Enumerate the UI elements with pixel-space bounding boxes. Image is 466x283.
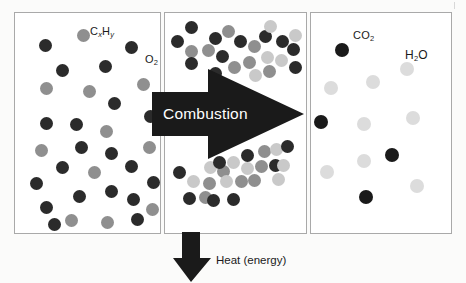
molecule-circle [147,176,160,189]
molecule-circle [30,177,43,190]
molecule-circle [357,117,371,131]
molecule-circle [220,175,233,188]
molecule-circle [56,64,69,77]
molecule-circle [209,32,222,45]
molecule-circle [100,125,113,138]
label-o2: O2 [145,54,158,65]
molecule-circle [202,44,215,57]
molecule-circle [99,60,112,73]
molecule-circle [101,216,114,229]
molecule-circle [261,51,274,64]
molecule-circle [324,81,338,95]
molecule-circle [207,194,220,207]
label-co2: CO2 [353,30,374,41]
molecule-circle [105,185,118,198]
molecule-circle [146,203,159,216]
molecule-circle [406,111,420,125]
molecule-circle [125,41,138,54]
molecule-circle [40,82,53,95]
molecule-circle [359,190,373,204]
molecule-circle [40,201,53,214]
molecule-circle [264,20,277,33]
molecule-circle [235,175,248,188]
molecule-circle [56,161,69,174]
corner-tick-mark [447,2,455,9]
molecule-circle [357,154,371,168]
molecule-circle [83,85,96,98]
molecule-circle [366,75,380,89]
molecule-circle [400,62,414,76]
molecule-circle [275,54,288,67]
molecule-circle [385,148,399,162]
molecule-circle [39,39,52,52]
molecule-circle [255,160,268,173]
molecule-circle [287,43,300,56]
molecule-circle [40,117,53,130]
molecule-circle [70,118,83,131]
molecule-circle [314,115,328,129]
molecule-circle [131,213,144,226]
molecule-circle [320,165,334,179]
reactants-panel: CxHy O2 [14,12,161,234]
molecule-circle [108,97,121,110]
molecule-circle [248,174,261,187]
molecule-circle [187,175,200,188]
molecule-circle [127,193,140,206]
label-h2o: H2O [405,49,428,61]
molecule-circle [73,190,86,203]
molecule-circle [183,192,196,205]
molecule-circle [65,214,78,227]
molecule-circle [185,21,198,34]
molecule-circle [272,173,285,186]
molecule-circle [171,35,184,48]
label-cxhy: CxHy [90,26,114,37]
molecule-circle [277,159,290,172]
heat-arrow-icon [173,232,211,282]
molecule-circle [88,166,101,179]
molecule-circle [75,141,88,154]
molecule-circle [335,43,349,57]
molecule-circle [35,144,48,157]
molecule-circle [410,179,424,193]
molecule-circle [234,35,247,48]
molecule-circle [137,78,150,91]
combustion-diagram: CxHy O2 CO2 H2O Combustion Heat (energy) [0,0,466,283]
molecule-circle [227,193,240,206]
molecule-circle [222,25,235,38]
molecule-circle [289,29,302,42]
molecule-circle [77,29,90,42]
heat-energy-label: Heat (energy) [216,255,286,267]
molecule-circle [173,166,186,179]
molecule-circle [216,50,229,63]
molecule-circle [203,177,216,190]
molecule-circle [248,40,261,53]
products-panel: CO2 H2O [310,12,452,234]
molecule-circle [125,160,138,173]
molecule-circle [48,218,61,231]
molecule-circle [105,147,118,160]
molecule-circle [243,56,256,69]
molecule-circle [241,162,254,175]
combustion-label: Combustion [163,106,248,122]
